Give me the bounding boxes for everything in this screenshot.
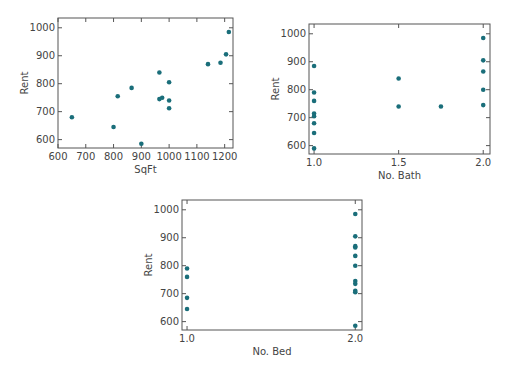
data-point: [353, 234, 358, 239]
data-point: [312, 99, 317, 104]
data-point: [353, 290, 358, 295]
plot-area: 6007008009001000110012006007008009001000…: [19, 18, 237, 175]
x-tick-label: 1.5: [391, 157, 407, 168]
data-point: [312, 111, 317, 116]
data-point: [167, 98, 172, 103]
x-tick-label: 1100: [184, 151, 209, 162]
data-point: [353, 245, 358, 250]
data-point: [353, 282, 358, 287]
x-axis-label: No. Bath: [378, 170, 421, 181]
data-point: [312, 131, 317, 136]
x-tick-label: 700: [76, 151, 95, 162]
data-point: [312, 64, 317, 69]
y-tick-label: 1000: [154, 204, 179, 215]
data-point: [353, 254, 358, 259]
y-tick-label: 600: [160, 316, 179, 327]
y-axis-label: Rent: [143, 253, 154, 276]
data-point: [312, 90, 317, 95]
y-axis-label: Rent: [19, 71, 30, 94]
x-tick-label: 1.0: [179, 333, 195, 344]
data-point: [224, 52, 229, 57]
data-point: [312, 121, 317, 126]
data-point: [167, 106, 172, 111]
data-point: [111, 125, 116, 130]
data-point: [206, 62, 211, 67]
y-tick-label: 600: [287, 140, 306, 151]
data-point: [481, 58, 486, 63]
plot-area: 1.01.52.06007008009001000No. BathRent: [270, 24, 491, 181]
x-tick-label: 1200: [212, 151, 237, 162]
x-tick-label: 2.0: [347, 333, 363, 344]
data-point: [115, 94, 120, 99]
x-tick-label: 900: [132, 151, 151, 162]
data-point: [353, 263, 358, 268]
y-axis-label: Rent: [270, 77, 281, 100]
y-tick-label: 800: [287, 84, 306, 95]
data-point: [396, 104, 401, 109]
y-tick-label: 700: [36, 106, 55, 117]
scatter-rent-vs-bed: 1.02.06007008009001000No. BedRent: [128, 185, 384, 370]
data-point: [185, 266, 190, 271]
data-point: [439, 104, 444, 109]
axes-frame: [182, 200, 362, 330]
data-point: [312, 146, 317, 151]
y-tick-label: 1000: [281, 28, 306, 39]
scatter-rent-vs-sqft: 6007008009001000110012006007008009001000…: [0, 0, 256, 189]
x-tick-label: 2.0: [475, 157, 491, 168]
y-tick-label: 800: [160, 260, 179, 271]
y-tick-label: 1000: [30, 22, 55, 33]
data-point: [353, 324, 358, 329]
y-tick-label: 900: [36, 50, 55, 61]
y-tick-label: 600: [36, 134, 55, 145]
data-point: [157, 70, 162, 75]
data-point: [139, 142, 144, 147]
data-point: [129, 86, 134, 91]
data-point: [481, 36, 486, 41]
data-point: [218, 60, 223, 65]
data-point: [70, 115, 75, 120]
data-point: [185, 275, 190, 280]
data-point: [167, 80, 172, 85]
data-point: [353, 212, 358, 217]
scatter-rent-vs-bath: 1.01.52.06007008009001000No. BathRent: [256, 0, 512, 189]
data-point: [160, 95, 165, 100]
axes-frame: [309, 24, 490, 154]
y-tick-label: 700: [160, 288, 179, 299]
data-point: [481, 103, 486, 108]
chart-svg: 6007008009001000110012006007008009001000…: [0, 0, 256, 185]
y-tick-label: 900: [160, 232, 179, 243]
x-tick-label: 1.0: [306, 157, 322, 168]
chart-svg: 1.01.52.06007008009001000No. BathRent: [256, 0, 512, 185]
data-point: [185, 307, 190, 312]
y-tick-label: 800: [36, 78, 55, 89]
data-point: [227, 30, 232, 35]
x-tick-label: 800: [104, 151, 123, 162]
data-point: [396, 76, 401, 81]
data-point: [185, 296, 190, 301]
y-tick-label: 900: [287, 56, 306, 67]
chart-svg: 1.02.06007008009001000No. BedRent: [128, 185, 384, 370]
x-tick-label: 600: [48, 151, 67, 162]
x-axis-label: SqFt: [134, 164, 156, 175]
x-tick-label: 1000: [156, 151, 181, 162]
x-axis-label: No. Bed: [252, 346, 291, 357]
data-point: [481, 69, 486, 74]
data-point: [481, 87, 486, 92]
axes-frame: [58, 18, 233, 148]
plot-area: 1.02.06007008009001000No. BedRent: [143, 200, 363, 357]
y-tick-label: 700: [287, 112, 306, 123]
